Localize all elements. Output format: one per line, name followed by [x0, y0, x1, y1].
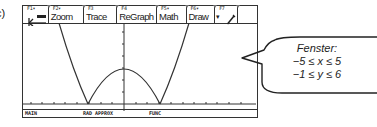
tab-label: ReGraph [119, 12, 153, 22]
tab-f1-tools[interactable]: F1▾ [23, 6, 49, 23]
figure-label: c) [0, 7, 5, 19]
status-graph-mode: FUNC [149, 110, 161, 116]
tab-label: Trace [86, 12, 107, 22]
tab-f7-pencil[interactable]: F7 ▾ [215, 6, 238, 23]
chevron-down-icon: ▾ [216, 12, 219, 22]
tab-f4-regraph[interactable]: F4 ReGraph [117, 6, 157, 23]
tab-f2-zoom[interactable]: F2▾ Zoom [49, 6, 84, 23]
callout-x-range: −5 ≤ x ≤ 5 [262, 55, 372, 68]
curve-right-branch [160, 23, 189, 104]
status-angle-approx: RAD APPROX [83, 110, 113, 116]
callout-y-range: −1 ≤ y ≤ 6 [262, 68, 372, 81]
callout-text: Fenster: −5 ≤ x ≤ 5 −1 ≤ y ≤ 6 [262, 42, 372, 81]
status-mode: MAIN [25, 110, 37, 116]
callout-title: Fenster: [262, 42, 372, 55]
tab-f5-math[interactable]: F5▾ Math [157, 6, 187, 23]
graph-area[interactable] [23, 23, 256, 111]
tab-f8-blank[interactable] [238, 6, 257, 23]
toolbar: F1▾ F2▾ Zoom F3 Trace F4 R [23, 6, 257, 24]
tab-label: Math [159, 12, 178, 22]
calculator-screen: F1▾ F2▾ Zoom F3 Trace F4 R [22, 5, 258, 118]
curve-left-branch [59, 23, 88, 104]
tab-label: Zoom [51, 12, 73, 22]
tab-f3-trace[interactable]: F3 Trace [84, 6, 117, 23]
fkey-label: F7 [219, 6, 224, 11]
tab-label: Draw [189, 12, 209, 22]
function-plot [23, 23, 256, 111]
tab-f6-draw[interactable]: F6▾ Draw [187, 6, 216, 23]
status-bar: MAIN RAD APPROX FUNC [23, 109, 257, 117]
